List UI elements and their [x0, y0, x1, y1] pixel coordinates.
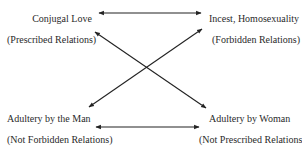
node-incest-homosexuality: Incest, Homosexuality — [209, 13, 299, 25]
node-title: Adultery by Woman — [209, 113, 290, 124]
node-adultery-by-woman: Adultery by Woman — [209, 113, 290, 125]
arrow-diagonal-tl-br — [95, 32, 206, 108]
node-adultery-by-the-man: Adultery by the Man — [7, 113, 91, 125]
node-not-forbidden-relations: (Not Forbidden Relations) — [7, 134, 113, 146]
arrow-diagonal-bl-tr — [89, 29, 202, 107]
node-subtitle: (Not Prescribed Relations) — [199, 134, 302, 145]
node-conjugal-love: Conjugal Love — [31, 13, 93, 25]
node-subtitle: (Prescribed Relations) — [7, 34, 96, 45]
node-title: Incest, Homosexuality — [209, 13, 299, 24]
node-forbidden-relations: (Forbidden Relations) — [212, 34, 300, 46]
node-title: Conjugal Love — [32, 13, 92, 24]
node-subtitle: (Forbidden Relations) — [212, 34, 300, 45]
node-subtitle: (Not Forbidden Relations) — [7, 134, 113, 145]
node-title: Adultery by the Man — [7, 113, 91, 124]
node-not-prescribed-relations: (Not Prescribed Relations) — [199, 134, 302, 146]
node-prescribed-relations: (Prescribed Relations) — [7, 34, 96, 46]
